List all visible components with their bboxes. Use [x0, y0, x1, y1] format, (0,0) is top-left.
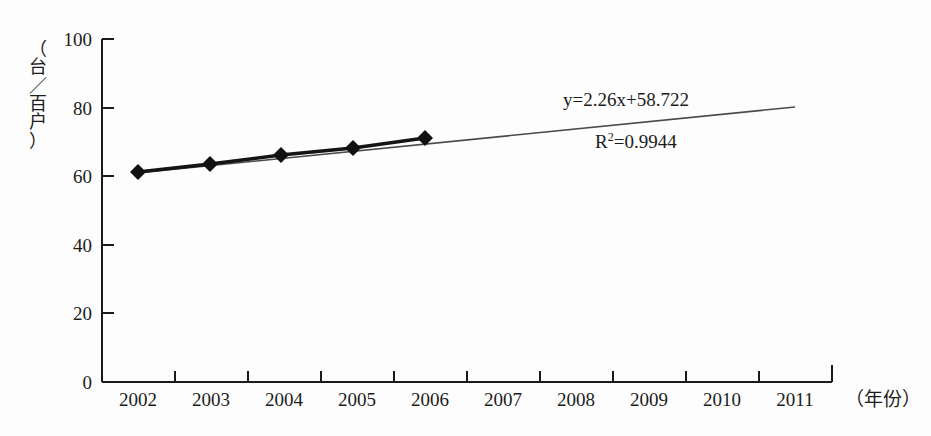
data-point-marker — [130, 164, 146, 180]
y-tick-label-0: 0 — [52, 373, 92, 392]
x-tick-label-2006: 2006 — [395, 390, 465, 409]
y-axis-title-char: ） — [26, 132, 50, 150]
chart-canvas — [0, 0, 931, 436]
y-tick-label-40: 40 — [52, 236, 92, 255]
x-axis-title: （年份） — [845, 390, 921, 409]
y-axis-title-char: ／ — [26, 77, 50, 95]
x-tick-label-2008: 2008 — [541, 390, 611, 409]
r-squared-value: =0.9944 — [614, 131, 677, 152]
r-squared-base: R — [595, 131, 608, 152]
trendline — [137, 107, 795, 173]
x-tick-label-2002: 2002 — [103, 390, 173, 409]
y-axis-title: （ 台 ／ 百 户 ） — [26, 40, 50, 150]
y-tick-label-80: 80 — [52, 99, 92, 118]
x-tick-label-2003: 2003 — [176, 390, 246, 409]
data-point-marker — [345, 140, 361, 156]
x-tick-label-2005: 2005 — [322, 390, 392, 409]
x-tick-label-2009: 2009 — [614, 390, 684, 409]
y-tick-label-20: 20 — [52, 304, 92, 323]
r-squared-label: R2=0.9944 — [595, 131, 677, 151]
trendline-equation-label: y=2.26x+58.722 — [563, 90, 689, 109]
y-axis-title-char: 户 — [26, 113, 50, 131]
x-tick-label-2007: 2007 — [468, 390, 538, 409]
x-tick-label-2004: 2004 — [249, 390, 319, 409]
y-axis-ticks — [102, 39, 114, 313]
y-axis-title-char: （ — [26, 40, 50, 58]
chart-figure: （ 台 ／ 百 户 ） 100 80 60 40 20 0 2002 2003 … — [0, 0, 931, 436]
y-axis-title-char: 百 — [26, 95, 50, 113]
data-point-marker — [273, 147, 289, 163]
y-tick-label-60: 60 — [52, 167, 92, 186]
y-tick-label-100: 100 — [52, 30, 92, 49]
x-tick-label-2011: 2011 — [760, 390, 830, 409]
data-point-marker — [202, 156, 218, 172]
x-tick-label-2010: 2010 — [687, 390, 757, 409]
series-markers — [130, 130, 433, 180]
x-axis-ticks — [175, 365, 832, 382]
y-axis-title-char: 台 — [26, 58, 50, 76]
